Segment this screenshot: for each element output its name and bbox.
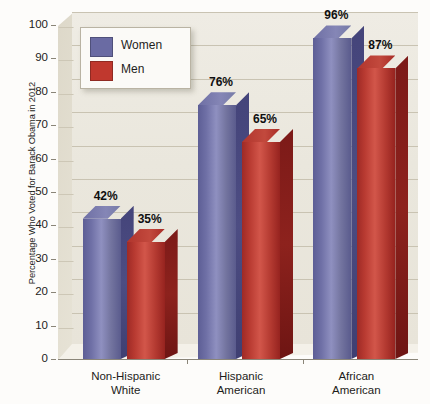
y-axis-tick-label: 50 (18, 185, 48, 197)
y-axis-tick-mark (51, 292, 56, 293)
bar-women-hispanic-american (198, 105, 236, 359)
bar-women-african-american (313, 38, 351, 359)
y-axis-tick-label: 10 (18, 319, 48, 331)
legend: Women Men (80, 27, 191, 89)
legend-swatch-women (90, 37, 113, 57)
y-axis-tick-mark (51, 225, 56, 226)
bar-value-label: 65% (235, 112, 295, 126)
bar-chart: Percentage Who Voted for Barack Obama in… (0, 0, 430, 404)
y-axis-tick-mark (51, 359, 56, 360)
bar-value-label: 87% (350, 38, 410, 52)
bar-men-african-american (357, 68, 395, 359)
bar-front-face (83, 219, 121, 359)
y-axis-tick-mark (51, 58, 56, 59)
y-axis-tick-mark (51, 125, 56, 126)
y-axis-tick-label: 30 (18, 252, 48, 264)
bar-value-label: 96% (306, 8, 366, 22)
bar-side-face (165, 229, 178, 359)
bar-women-non-hispanic-white (83, 219, 121, 359)
x-axis-line (58, 359, 418, 360)
legend-label-men: Men (121, 62, 144, 76)
bar-men-non-hispanic-white (127, 242, 165, 359)
bar-value-label: 35% (120, 212, 180, 226)
bar-value-label: 42% (76, 189, 136, 203)
bar-front-face (313, 38, 351, 359)
bar-front-face (357, 68, 395, 359)
y-axis-tick-label: 80 (18, 85, 48, 97)
x-axis-tick-mark (303, 359, 304, 364)
y-axis-tick-label: 90 (18, 51, 48, 63)
x-axis-category-line: American (296, 383, 416, 397)
bar-front-face (198, 105, 236, 359)
y-axis-tick-label: 60 (18, 152, 48, 164)
bar-front-face (127, 242, 165, 359)
bar-side-face (395, 55, 408, 359)
y-axis-tick-mark (51, 159, 56, 160)
x-axis-category-line: Non-Hispanic (66, 369, 186, 383)
y-axis-tick-label: 70 (18, 118, 48, 130)
x-axis-category-line: White (66, 383, 186, 397)
bar-men-hispanic-american (242, 142, 280, 359)
y-axis-tick-label: 20 (18, 285, 48, 297)
y-axis-tick-label: 100 (18, 18, 48, 30)
bar-side-face (280, 129, 293, 359)
x-axis-category-label: AfricanAmerican (296, 369, 416, 397)
x-axis-category-line: African (296, 369, 416, 383)
bar-front-face (242, 142, 280, 359)
x-axis-category-label: HispanicAmerican (181, 369, 301, 397)
y-axis-tick-label: 0 (18, 352, 48, 364)
legend-label-women: Women (121, 38, 162, 52)
y-axis-tick-label: 40 (18, 218, 48, 230)
y-axis-tick-mark (51, 192, 56, 193)
x-axis-tick-mark (187, 359, 188, 364)
legend-swatch-men (90, 61, 113, 81)
y-axis-tick-mark (51, 326, 56, 327)
y-axis-tick-mark (51, 259, 56, 260)
y-axis-tick-mark (51, 25, 56, 26)
x-axis-category-line: Hispanic (181, 369, 301, 383)
x-axis-category-line: American (181, 383, 301, 397)
bar-value-label: 76% (191, 75, 251, 89)
y-axis-tick-mark (51, 92, 56, 93)
x-axis-category-label: Non-HispanicWhite (66, 369, 186, 397)
